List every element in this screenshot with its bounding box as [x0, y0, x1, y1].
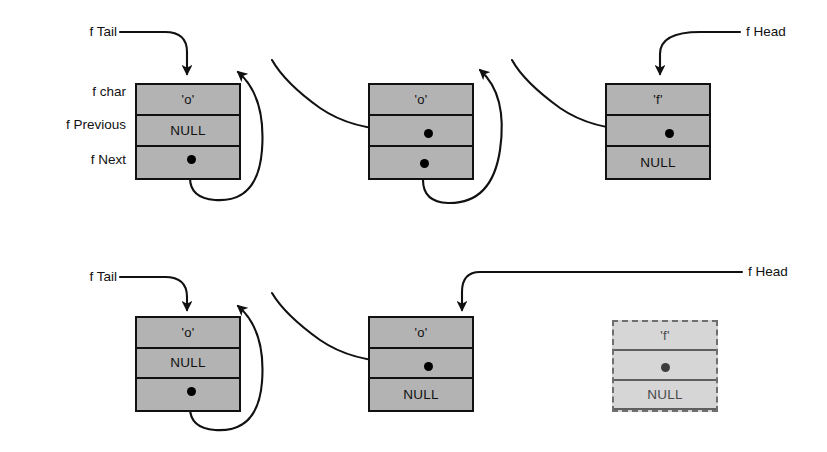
top-head-pointer-curve [660, 32, 740, 74]
next-pointer-dot [187, 387, 196, 396]
next-pointer-dot [187, 155, 196, 164]
row-label-char: f char [0, 84, 126, 99]
previous-pointer-dot [661, 363, 670, 372]
bottom-head-pointer-curve [462, 272, 742, 310]
node-bottom-2-previous-cell [370, 349, 472, 380]
node-bottom-2: 'o' NULL [368, 316, 474, 412]
node-char-value: 'o' [181, 325, 194, 340]
node-char-value: 'o' [181, 92, 194, 107]
previous-pointer-dot [665, 129, 674, 138]
node-char-value: 'o' [414, 92, 427, 107]
node-top-3: 'f' NULL [605, 83, 711, 180]
bottom-tail-pointer-curve [120, 277, 187, 310]
node-top-1: 'o' NULL [135, 83, 241, 180]
node-previous-value: NULL [170, 123, 206, 138]
node-char-value: 'o' [414, 325, 427, 340]
bottom-tail-label: f Tail [0, 269, 117, 284]
node-bottom-1-char-cell: 'o' [137, 318, 239, 349]
node-char-value: 'f' [653, 92, 662, 107]
node-bottom-1-previous-cell: NULL [137, 349, 239, 380]
linked-list-figure: f char f Previous f Next f Tail f Head f… [0, 0, 827, 452]
node-bottom-3-char-cell: 'f' [614, 322, 716, 351]
node-top-2: 'o' [368, 83, 474, 180]
node-bottom-3-deleted: 'f' NULL [612, 320, 718, 412]
node-top-3-next-cell: NULL [607, 147, 709, 178]
node-bottom-2-next-cell: NULL [370, 379, 472, 410]
node-bottom-1: 'o' NULL [135, 316, 241, 412]
node-bottom-3-previous-cell [614, 351, 716, 380]
top-head-label: f Head [746, 24, 786, 39]
node-top-1-previous-cell: NULL [137, 116, 239, 147]
node-bottom-1-next-cell [137, 379, 239, 410]
previous-pointer-dot [424, 129, 433, 138]
node-next-value: NULL [640, 155, 676, 170]
node-bottom-2-char-cell: 'o' [370, 318, 472, 349]
node-next-value: NULL [403, 387, 439, 402]
previous-pointer-dot [424, 362, 433, 371]
row-label-next: f Next [0, 152, 126, 167]
node-top-3-previous-cell [607, 116, 709, 147]
node-top-3-char-cell: 'f' [607, 85, 709, 116]
node-previous-value: NULL [170, 355, 206, 370]
node-top-1-char-cell: 'o' [137, 85, 239, 116]
row-label-previous: f Previous [0, 117, 126, 132]
bottom-head-label: f Head [748, 264, 788, 279]
node-next-value: NULL [647, 387, 683, 402]
node-bottom-3-next-cell: NULL [614, 381, 716, 410]
next-pointer-dot [420, 159, 429, 168]
node-top-2-char-cell: 'o' [370, 85, 472, 116]
top-tail-label: f Tail [0, 24, 117, 39]
node-top-2-previous-cell [370, 116, 472, 147]
node-top-2-next-cell [370, 147, 472, 178]
node-top-1-next-cell [137, 147, 239, 178]
node-char-value: 'f' [660, 328, 669, 343]
top-tail-pointer-curve [120, 32, 187, 74]
